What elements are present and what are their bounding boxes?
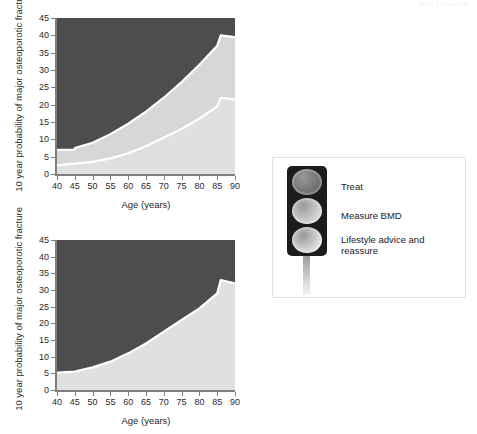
y-tick-label: 35 (39, 268, 49, 278)
x-tick-label: 80 (194, 181, 204, 191)
chart-bottom-y-axis-title: 10 year probability of major osteoporoti… (2, 228, 36, 390)
figure-page: BMJ | Practice 10 year probability of ma… (0, 0, 477, 434)
y-tick (51, 53, 55, 54)
y-tick-label: 20 (39, 318, 49, 328)
x-tick (182, 392, 183, 396)
x-tick (75, 176, 76, 180)
chart-bottom: 10 year probability of major osteoporoti… (0, 228, 250, 434)
x-tick (217, 176, 218, 180)
chart-top-x-axis-title: Age (years) (57, 199, 235, 210)
y-tick-label: 30 (39, 285, 49, 295)
x-tick (235, 392, 236, 396)
y-tick (51, 122, 55, 123)
x-tick-label: 55 (105, 397, 115, 407)
chart-bottom-y-axis-line (55, 240, 57, 390)
x-tick-label: 40 (52, 181, 62, 191)
x-tick-label: 90 (230, 397, 240, 407)
chart-bottom-plot-wrap: 051015202530354045 404550556065707580859… (57, 240, 235, 390)
x-tick-label: 55 (105, 181, 115, 191)
x-tick (199, 392, 200, 396)
y-tick (51, 323, 55, 324)
y-tick-label: 35 (39, 48, 49, 58)
x-tick-label: 60 (123, 397, 133, 407)
y-tick (51, 340, 55, 341)
x-tick (146, 392, 147, 396)
x-tick (110, 392, 111, 396)
y-tick (51, 70, 55, 71)
traffic-light-pole-icon (303, 250, 310, 295)
y-tick-label: 15 (39, 117, 49, 127)
chart-top-area-svg (57, 18, 235, 174)
x-tick (182, 176, 183, 180)
x-tick (110, 176, 111, 180)
x-tick (75, 392, 76, 396)
chart-bottom-y-axis-title-text: 10 year probability of major osteoporoti… (13, 207, 25, 411)
x-tick-label: 70 (159, 397, 169, 407)
legend-item-lifestyle: Lifestyle advice and reassure (341, 230, 459, 259)
traffic-light-housing (287, 166, 327, 256)
y-tick-label: 30 (39, 65, 49, 75)
y-tick (51, 139, 55, 140)
y-tick-label: 10 (39, 134, 49, 144)
x-tick-label: 70 (159, 181, 169, 191)
y-tick (51, 257, 55, 258)
legend-item-measure-bmd: Measure BMD (341, 201, 459, 230)
legend-item-lifestyle-label: Lifestyle advice and reassure (341, 234, 459, 256)
x-tick (93, 176, 94, 180)
x-tick (235, 176, 236, 180)
y-tick (51, 240, 55, 241)
chart-top-y-axis-title-text: 10 year probability of major osteoporoti… (13, 0, 25, 192)
legend-label-list: Treat Measure BMD Lifestyle advice and r… (341, 166, 459, 259)
y-tick (51, 18, 55, 19)
x-tick-label: 85 (212, 397, 222, 407)
x-tick (199, 176, 200, 180)
y-tick (51, 290, 55, 291)
chart-top-plot-wrap: 051015202530354045 404550556065707580859… (57, 18, 235, 174)
x-tick (93, 392, 94, 396)
y-tick-label: 45 (39, 13, 49, 23)
x-tick (164, 176, 165, 180)
y-tick (51, 35, 55, 36)
amber-lamp-icon (292, 198, 322, 224)
y-tick-label: 25 (39, 82, 49, 92)
chart-top-x-axis-line (55, 174, 235, 176)
x-tick-label: 50 (88, 397, 98, 407)
y-tick-label: 0 (44, 169, 49, 179)
chart-top-y-axis-title: 10 year probability of major osteoporoti… (2, 6, 36, 174)
x-tick-label: 65 (141, 397, 151, 407)
y-tick-label: 10 (39, 352, 49, 362)
chart-bottom-area-svg (57, 240, 235, 390)
chart-bottom-x-axis-line (55, 390, 235, 392)
green-lamp-icon (292, 227, 322, 253)
x-tick-label: 75 (177, 181, 187, 191)
y-tick-label: 25 (39, 302, 49, 312)
legend-item-measure-bmd-label: Measure BMD (341, 210, 402, 221)
y-tick-label: 40 (39, 252, 49, 262)
x-tick (217, 392, 218, 396)
chart-top: 10 year probability of major osteoporoti… (0, 6, 250, 218)
y-tick-label: 20 (39, 100, 49, 110)
x-tick (57, 392, 58, 396)
chart-bottom-lifestyle-zone (57, 280, 235, 390)
x-tick-label: 40 (52, 397, 62, 407)
y-tick (51, 390, 55, 391)
y-tick (51, 273, 55, 274)
y-tick (51, 87, 55, 88)
x-tick-label: 60 (123, 181, 133, 191)
y-tick (51, 105, 55, 106)
y-tick-label: 5 (44, 368, 49, 378)
x-tick-label: 90 (230, 181, 240, 191)
y-tick (51, 373, 55, 374)
x-tick-label: 45 (70, 181, 80, 191)
x-tick-label: 85 (212, 181, 222, 191)
x-tick-label: 65 (141, 181, 151, 191)
y-tick-label: 0 (44, 385, 49, 395)
y-tick (51, 307, 55, 308)
y-tick (51, 157, 55, 158)
x-tick-label: 50 (88, 181, 98, 191)
y-tick-label: 40 (39, 30, 49, 40)
traffic-light-graphic (287, 166, 327, 291)
chart-top-plot-area (57, 18, 235, 174)
x-tick-label: 75 (177, 397, 187, 407)
x-tick (57, 176, 58, 180)
